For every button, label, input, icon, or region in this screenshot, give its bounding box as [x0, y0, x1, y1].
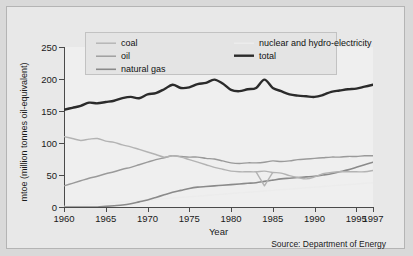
coal-1984-dip — [256, 172, 273, 186]
x-tick-label: 1965 — [95, 213, 116, 224]
legend-label-total: total — [259, 51, 276, 61]
chart-card: mtoe (million tonnes oil-equivalent) 050… — [6, 6, 405, 249]
x-tick — [64, 207, 65, 212]
x-tick — [231, 207, 232, 212]
y-tick — [59, 79, 64, 80]
y-tick-label: 150 — [41, 106, 57, 117]
legend-item-natural_gas: natural gas — [96, 64, 166, 74]
legend-swatch-nuclear_hydro — [234, 41, 254, 45]
legend-item-oil: oil — [96, 51, 130, 61]
series-line-oil — [64, 156, 373, 186]
x-tick-label: 1985 — [262, 213, 283, 224]
x-axis-title: Year — [64, 226, 373, 237]
y-tick-label: 100 — [41, 138, 57, 149]
x-tick — [273, 207, 274, 212]
legend-label-oil: oil — [121, 51, 130, 61]
legend-label-natural_gas: natural gas — [121, 64, 166, 74]
legend-label-nuclear_hydro: nuclear and hydro-electricity — [259, 38, 372, 48]
x-tick-label: 1990 — [304, 213, 325, 224]
legend-label-coal: coal — [121, 38, 138, 48]
y-tick — [59, 47, 64, 48]
legend-swatch-coal — [96, 41, 116, 45]
x-tick — [356, 207, 357, 212]
source-note: Source: Department of Energy — [271, 239, 386, 249]
y-tick-label: 0 — [52, 202, 57, 213]
x-tick — [315, 207, 316, 212]
x-tick — [373, 207, 374, 212]
x-tick-label: 1960 — [53, 213, 74, 224]
y-tick-label: 200 — [41, 74, 57, 85]
y-tick-label: 50 — [46, 170, 57, 181]
x-tick — [106, 207, 107, 212]
x-tick-label: 1975 — [179, 213, 200, 224]
y-tick — [59, 175, 64, 176]
chart-legend: coaloilnatural gasnuclear and hydro-elec… — [85, 32, 337, 75]
y-tick — [59, 143, 64, 144]
series-line-total — [64, 80, 373, 110]
legend-swatch-total — [234, 53, 254, 58]
legend-swatch-oil — [96, 54, 116, 58]
legend-item-total: total — [234, 51, 276, 61]
legend-item-nuclear_hydro: nuclear and hydro-electricity — [234, 38, 372, 48]
chart-image-frame: mtoe (million tonnes oil-equivalent) 050… — [0, 0, 413, 256]
x-tick — [189, 207, 190, 212]
y-tick-label: 250 — [41, 42, 57, 53]
x-tick-label: 1997 — [362, 213, 383, 224]
x-tick — [148, 207, 149, 212]
x-axis-line — [64, 207, 373, 208]
y-tick — [59, 111, 64, 112]
legend-swatch-natural_gas — [96, 67, 116, 72]
legend-item-coal: coal — [96, 38, 138, 48]
x-tick-label: 1980 — [220, 213, 241, 224]
x-tick-label: 1970 — [137, 213, 158, 224]
y-axis-labels: 050100150200250 — [7, 7, 57, 256]
